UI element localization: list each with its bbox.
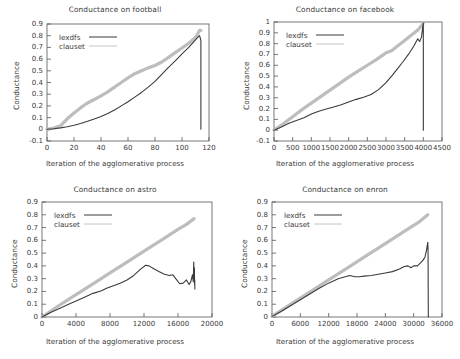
y-tick-label: 0.4 <box>242 262 268 270</box>
legend-label-clauset-facebook: clauset <box>286 40 312 49</box>
chart-panel-enron: Conductance on enron Conductance Iterati… <box>230 180 460 359</box>
y-tick-label: 0.8 <box>242 211 268 219</box>
x-tick-label: 8000 <box>94 320 126 328</box>
y-tick-label: 0.3 <box>12 275 38 283</box>
x-tick-label: 12000 <box>128 320 160 328</box>
y-tick-label: 0.5 <box>244 72 270 80</box>
series-line-clauset <box>42 219 194 317</box>
y-tick-label: 0.3 <box>17 90 43 98</box>
series-line-lexdfs <box>272 242 428 317</box>
y-tick-label: 0.7 <box>242 224 268 232</box>
y-tick-label: 0.8 <box>244 40 270 48</box>
y-tick-label: 0.9 <box>17 20 43 28</box>
legend-label-lexdfs-astro: lexdfs <box>54 211 75 220</box>
chart-panel-astro: Conductance on astro Conductance Iterati… <box>0 180 230 359</box>
y-tick-label: 0.7 <box>12 224 38 232</box>
y-tick-label: 0.5 <box>17 67 43 75</box>
y-tick-label: 0.1 <box>244 115 270 123</box>
chart-panel-facebook: Conductance on facebook Conductance Iter… <box>230 0 460 180</box>
y-tick-label: 0.8 <box>17 32 43 40</box>
y-tick-label: 0.5 <box>242 249 268 257</box>
legend-label-lexdfs-facebook: lexdfs <box>286 31 307 40</box>
y-tick-label: 0.1 <box>12 300 38 308</box>
y-tick-label: 0.4 <box>244 83 270 91</box>
legend-label-clauset-astro: clauset <box>54 220 80 229</box>
y-tick-label: 0 <box>244 126 270 134</box>
y-tick-label: 0.8 <box>12 211 38 219</box>
y-tick-label: 0.6 <box>242 236 268 244</box>
y-tick-label: 0.7 <box>244 50 270 58</box>
y-tick-label: 0.3 <box>244 94 270 102</box>
y-tick-label: 0.2 <box>244 105 270 113</box>
y-tick-label: 0.3 <box>242 275 268 283</box>
x-tick-label: 16000 <box>162 320 194 328</box>
x-tick-label: 30000 <box>398 320 430 328</box>
y-tick-label: 0.1 <box>17 114 43 122</box>
series-line-clauset <box>272 215 428 317</box>
y-tick-label: 0.9 <box>242 198 268 206</box>
figure-grid: Conductance on football Conductance Iter… <box>0 0 460 359</box>
x-tick-label: 6000 <box>284 320 316 328</box>
legend-label-lexdfs-enron: lexdfs <box>284 211 305 220</box>
y-tick-label: 0.9 <box>244 29 270 37</box>
series-line-lexdfs <box>42 262 195 317</box>
y-tick-label: 0.6 <box>17 55 43 63</box>
x-tick-label: 12000 <box>313 320 345 328</box>
y-tick-label: 0.6 <box>244 61 270 69</box>
y-tick-label: 0 <box>17 125 43 133</box>
y-tick-label: 0.7 <box>17 43 43 51</box>
y-tick-label: 0.2 <box>242 287 268 295</box>
x-tick-label: 36000 <box>426 320 458 328</box>
y-tick-label: 0.2 <box>12 287 38 295</box>
x-tick-label: 4000 <box>60 320 92 328</box>
y-tick-label: 0.5 <box>12 249 38 257</box>
x-tick-label: 20000 <box>196 320 228 328</box>
legend-label-lexdfs-football: lexdfs <box>59 33 80 42</box>
y-tick-label: 0.9 <box>12 198 38 206</box>
chart-panel-football: Conductance on football Conductance Iter… <box>0 0 230 180</box>
y-tick-label: 0.6 <box>12 236 38 244</box>
x-tick-label: 0 <box>256 320 288 328</box>
x-tick-label: 120 <box>193 144 225 152</box>
y-tick-label: 1 <box>244 18 270 26</box>
y-tick-label: 0.2 <box>17 102 43 110</box>
legend-label-clauset-enron: clauset <box>284 220 310 229</box>
x-tick-label: 0 <box>26 320 58 328</box>
y-tick-label: 0.4 <box>12 262 38 270</box>
legend-label-clauset-football: clauset <box>59 42 85 51</box>
x-tick-label: 18000 <box>341 320 373 328</box>
y-tick-label: 0.4 <box>17 79 43 87</box>
x-tick-label: 24000 <box>369 320 401 328</box>
y-tick-label: 0.1 <box>242 300 268 308</box>
x-tick-label: 4500 <box>426 144 458 152</box>
